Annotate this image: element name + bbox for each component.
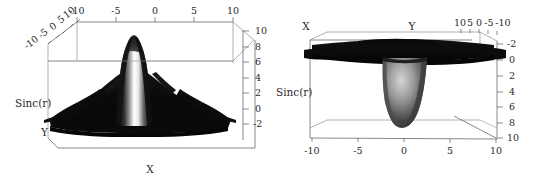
plot-left-z-axis: 10 8 6 4 2 0 -2	[243, 25, 267, 140]
rz-tick-5: 8	[509, 117, 515, 128]
x-tick-4: 10	[227, 5, 239, 16]
plot-left-y-axis: 10 5 0 -5 -10	[21, 4, 80, 51]
rz-tick-6: 10	[507, 132, 519, 143]
y-tick-4: -10	[21, 33, 40, 51]
rz-tick-1: 0	[509, 54, 515, 65]
plot-left-canvas: -10 -5 0 5 10 10 5 0 -5 -10	[0, 0, 272, 179]
y-tick-2: 0	[47, 20, 58, 32]
figure-container: -10 -5 0 5 10 10 5 0 -5 -10	[0, 0, 545, 179]
rx-tick-0: 10	[454, 17, 466, 28]
rz-tick-0: -2	[507, 38, 516, 49]
rz-axis-label: Sinc(r)	[276, 86, 312, 98]
x-tick-1: -5	[111, 5, 120, 16]
rx-tick-2: 0	[476, 17, 482, 28]
plot-right-canvas: -10 -5 0 5 10 10 5 0 -5 -10	[272, 0, 545, 179]
z-tick-4: 2	[255, 87, 261, 98]
rx-tick-1: 5	[467, 17, 473, 28]
ry-tick-1: -5	[353, 145, 362, 156]
plot-right-y-axis: -10 -5 0 5 10	[304, 138, 502, 156]
x-axis-label: X	[146, 163, 154, 175]
ry-tick-0: -10	[304, 145, 319, 156]
z-axis-label: Sinc(r)	[15, 97, 51, 109]
ry-tick-3: 5	[447, 145, 453, 156]
rz-tick-2: 2	[509, 70, 515, 81]
x-tick-3: 5	[191, 5, 197, 16]
rx-tick-4: -10	[495, 17, 510, 28]
rz-tick-4: 6	[509, 101, 515, 112]
ry-tick-2: 0	[401, 145, 407, 156]
z-tick-0: 10	[255, 25, 267, 36]
surface-plot-right: -10 -5 0 5 10 10 5 0 -5 -10	[272, 0, 545, 179]
rz-tick-3: 4	[509, 86, 515, 97]
z-tick-5: 0	[255, 103, 261, 114]
plot-right-surface	[304, 39, 506, 128]
z-tick-1: 8	[255, 41, 261, 52]
ry-axis-label: Y	[408, 20, 417, 32]
z-tick-2: 6	[255, 56, 261, 67]
z-tick-3: 4	[255, 72, 261, 83]
x-tick-2: 0	[152, 5, 158, 16]
ry-tick-4: 10	[490, 145, 502, 156]
rx-tick-3: -5	[484, 17, 493, 28]
z-tick-6: -2	[253, 118, 262, 129]
plot-left-x-axis: -10 -5 0 5 10	[69, 5, 239, 22]
plot-left-surface	[44, 35, 236, 137]
y-tick-3: -5	[36, 26, 50, 40]
y-axis-label: Y	[40, 126, 49, 138]
rx-axis-label: X	[302, 20, 310, 32]
surface-plot-left: -10 -5 0 5 10 10 5 0 -5 -10	[0, 0, 272, 179]
